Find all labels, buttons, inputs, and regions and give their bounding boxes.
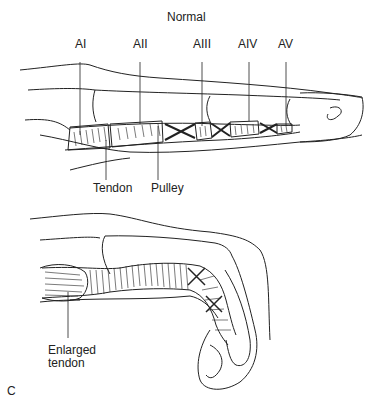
pulley-label-a4: AIV [238, 38, 257, 51]
pulley-label-a5: AV [278, 38, 293, 51]
figure-title: Normal [167, 11, 206, 24]
pulley-label-a3: AIII [193, 38, 211, 51]
tendon-label: Tendon [93, 182, 132, 195]
panel-label: C [7, 385, 16, 398]
pulley-label-a2: AII [133, 38, 148, 51]
enlarged-tendon-label-line2: tendon [48, 357, 85, 370]
pulley-label-a1: AI [75, 38, 86, 51]
pulley-label: Pulley [151, 182, 184, 195]
normal-finger [20, 62, 363, 180]
